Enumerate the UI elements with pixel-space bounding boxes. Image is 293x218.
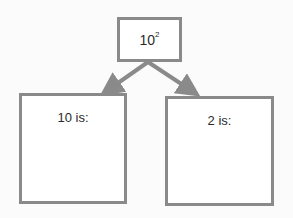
right-child-label: 2 is: xyxy=(168,113,271,128)
left-child-box: 10 is: xyxy=(19,93,127,204)
right-child-box: 2 is: xyxy=(165,96,274,206)
arrow-to-left xyxy=(108,62,148,90)
arrow-to-right xyxy=(148,62,192,91)
root-box: 102 xyxy=(117,17,182,62)
left-child-label: 10 is: xyxy=(22,110,124,125)
root-base: 10 xyxy=(139,32,155,48)
root-exponent: 2 xyxy=(155,30,159,39)
root-label: 102 xyxy=(139,32,159,48)
